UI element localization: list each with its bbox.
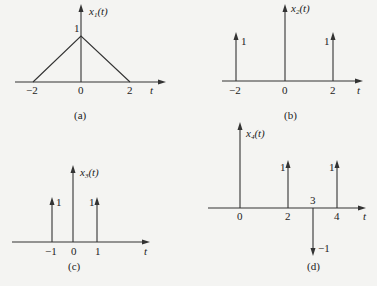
x-axis-arrow-icon — [355, 79, 363, 84]
panel-b: x2(t) 1 1 −2 0 2 t (b) — [222, 2, 363, 122]
impulse-weight: −1 — [318, 242, 330, 254]
impulse-weight: 1 — [329, 161, 335, 173]
panel-caption: (d) — [307, 260, 320, 273]
y-axis-arrow-icon — [71, 165, 76, 173]
tick-label: 4 — [334, 210, 340, 222]
y-axis-label: x4(t) — [245, 127, 265, 141]
tick-label: 1 — [95, 245, 101, 257]
panel-c: x3(t) 1 1 −1 0 1 t (c) — [12, 165, 150, 273]
impulse-arrow-icon — [95, 197, 100, 205]
impulse-arrow-icon — [311, 248, 316, 256]
x-axis-label: t — [144, 245, 148, 257]
impulse-arrow-icon — [335, 160, 340, 168]
impulse-weight: 1 — [324, 35, 330, 47]
tick-label: 3 — [310, 194, 316, 206]
tick-label: 2 — [285, 210, 291, 222]
tick-label: 0 — [71, 245, 77, 257]
impulse-arrow-icon — [286, 160, 291, 168]
tick-label: −1 — [45, 245, 57, 257]
x-axis-arrow-icon — [142, 240, 150, 245]
y-axis-arrow-icon — [79, 4, 84, 12]
y-axis-arrow-icon — [283, 4, 288, 12]
panel-caption: (a) — [74, 109, 87, 122]
x-axis-arrow-icon — [158, 80, 166, 85]
x-axis-label: t — [150, 84, 154, 96]
impulse-weight: 1 — [56, 196, 62, 208]
y-axis-label: x3(t) — [79, 166, 99, 180]
x-axis-label: t — [363, 210, 367, 222]
panel-caption: (c) — [68, 260, 81, 273]
x-axis-label: t — [357, 84, 361, 96]
impulse-arrow-icon — [50, 197, 55, 205]
tick-label: 0 — [282, 84, 288, 96]
panel-d: x4(t) 1 −1 1 0 2 3 4 t (d) — [208, 122, 367, 273]
y-axis-label: x2(t) — [290, 2, 310, 16]
tick-label: 2 — [127, 84, 133, 96]
impulse-weight: 1 — [280, 161, 286, 173]
tick-label: 2 — [330, 84, 336, 96]
tick-label: −2 — [26, 84, 38, 96]
panel-caption: (b) — [284, 109, 297, 122]
impulse-weight: 1 — [241, 35, 247, 47]
tick-label: 0 — [78, 84, 84, 96]
impulse-weight: 1 — [89, 196, 95, 208]
figure-canvas: x1(t) 1 −2 0 2 t (a) x2(t) 1 1 −2 0 2 t … — [0, 0, 377, 286]
y-axis-label: x1(t) — [88, 5, 108, 19]
tick-label: −2 — [229, 84, 241, 96]
impulse-arrow-icon — [331, 32, 336, 40]
peak-label: 1 — [74, 22, 80, 34]
tick-label: 0 — [237, 210, 243, 222]
impulse-arrow-icon — [234, 32, 239, 40]
y-axis-arrow-icon — [238, 122, 243, 130]
panel-a: x1(t) 1 −2 0 2 t (a) — [15, 4, 166, 122]
